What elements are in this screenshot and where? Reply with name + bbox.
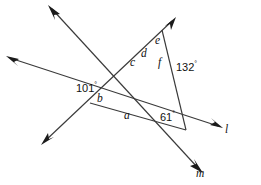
arrow-head-m-upper-left <box>48 5 60 20</box>
arrow-head-l-left <box>6 56 19 66</box>
line-label-l: l <box>225 124 228 136</box>
angle-label-a: a <box>124 110 130 122</box>
angle-measure-61-value: 61 <box>160 111 172 123</box>
angle-measure-101-value: 101 <box>76 82 94 94</box>
ray-through-b-c <box>45 21 172 141</box>
angle-measure-132-value: 132 <box>176 61 194 73</box>
degree-symbol-61: ° <box>172 110 175 117</box>
angle-label-e: e <box>155 35 160 47</box>
angle-measure-132: 132° <box>176 60 197 73</box>
degree-symbol-132: ° <box>194 60 197 67</box>
angle-measure-101: 101° <box>76 81 97 94</box>
angle-label-f: f <box>158 57 161 69</box>
geometry-canvas <box>0 0 261 185</box>
angle-label-c: c <box>130 57 135 69</box>
angle-measure-61: 61° <box>160 110 175 123</box>
angle-label-d: d <box>141 48 147 60</box>
line-label-m: m <box>196 168 204 180</box>
angle-label-b: b <box>97 93 103 105</box>
arrow-head-ray-upper-right <box>165 17 176 30</box>
degree-symbol-101: ° <box>94 81 97 88</box>
arrow-head-l-right <box>210 118 223 128</box>
geometry-figure: a b c d e f 101° 132° 61° l m <box>0 0 261 185</box>
